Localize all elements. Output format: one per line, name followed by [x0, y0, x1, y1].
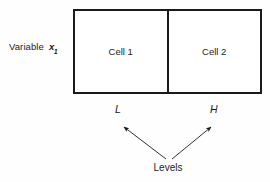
variable-subscript: 1	[54, 48, 58, 55]
cell-2: Cell 2	[169, 11, 261, 92]
level-label-high: H	[210, 103, 218, 115]
arrow-to-low-level	[124, 127, 166, 159]
level-label-low: L	[115, 103, 121, 115]
cells-container: Cell 1 Cell 2	[73, 9, 262, 94]
cell-1: Cell 1	[75, 11, 169, 92]
levels-caption-text: Levels	[154, 162, 183, 173]
cell-2-label: Cell 2	[202, 46, 226, 57]
cell-1-label: Cell 1	[109, 46, 133, 57]
arrow-to-high-level	[172, 127, 211, 159]
variable-label-text: Variable	[9, 41, 44, 52]
experimental-design-figure: Variablex1 Cell 1 Cell 2 L H Levels	[0, 0, 270, 182]
variable-label: Variablex1	[9, 41, 58, 54]
levels-caption: Levels	[0, 162, 270, 173]
